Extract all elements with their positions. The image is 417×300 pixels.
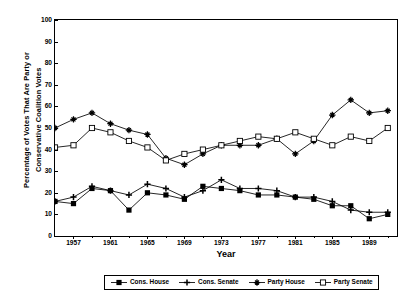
y-tick-label: 30 xyxy=(45,168,52,175)
data-point-open-square xyxy=(256,134,261,139)
series-canvas xyxy=(55,20,397,236)
series-line xyxy=(55,186,388,218)
data-point-open-square xyxy=(126,138,131,143)
x-tick-label: 1969 xyxy=(177,240,192,247)
x-tick-label: 1985 xyxy=(325,240,340,247)
legend-item-2[interactable]: Cons. Senate xyxy=(178,278,239,287)
data-point-asterisk xyxy=(126,127,132,133)
x-tick-mark-minor xyxy=(277,236,278,238)
y-axis-title-line-2: Conservative Coalition Votes xyxy=(32,0,46,240)
legend-item-3[interactable]: Party House xyxy=(248,278,305,287)
data-point-open-square xyxy=(237,138,242,143)
data-point-asterisk xyxy=(107,120,113,126)
x-tick-label: 1973 xyxy=(214,240,229,247)
x-tick-mark-minor xyxy=(388,236,389,238)
x-tick-mark-minor xyxy=(203,236,204,238)
data-point-filled-square xyxy=(256,192,261,197)
y-tick-label: 90 xyxy=(45,38,52,45)
data-point-open-square xyxy=(385,125,390,130)
data-point-filled-square xyxy=(71,201,76,206)
data-point-open-square xyxy=(311,136,316,141)
data-point-filled-square xyxy=(145,190,150,195)
series-3 xyxy=(55,97,391,168)
data-point-open-square xyxy=(182,151,187,156)
plot-area: 0102030405060708090100195719611965196919… xyxy=(54,19,398,237)
x-tick-mark-minor xyxy=(351,236,352,238)
series-line xyxy=(55,100,388,165)
data-point-asterisk xyxy=(385,108,391,114)
x-tick-label: 1957 xyxy=(66,240,81,247)
y-tick-label: 60 xyxy=(45,103,52,110)
data-point-plus xyxy=(126,192,132,198)
data-point-filled-square xyxy=(367,216,372,221)
y-axis-title: Percentage of Votes That Are Party or Co… xyxy=(0,0,52,240)
series-2 xyxy=(55,177,391,216)
data-point-plus xyxy=(218,177,224,183)
y-tick-mark xyxy=(55,150,58,151)
legend-marker-plus-icon xyxy=(178,278,196,287)
y-tick-label: 50 xyxy=(45,125,52,132)
data-point-open-square xyxy=(330,143,335,148)
data-point-open-square xyxy=(320,280,325,285)
y-tick-mark xyxy=(55,193,58,194)
chart-legend: Cons. HouseCons. SenateParty HouseParty … xyxy=(104,275,379,290)
data-point-asterisk xyxy=(366,110,372,116)
y-tick-mark xyxy=(55,214,58,215)
data-point-plus xyxy=(70,194,76,200)
x-tick-mark-minor xyxy=(92,236,93,238)
series-4 xyxy=(55,125,390,163)
data-point-plus xyxy=(163,185,169,191)
data-point-open-square xyxy=(219,143,224,148)
y-tick-mark xyxy=(55,236,58,237)
legend-marker-open-square-icon xyxy=(314,278,332,287)
data-point-plus xyxy=(144,181,150,187)
data-point-asterisk xyxy=(253,279,259,285)
y-tick-label: 20 xyxy=(45,190,52,197)
y-tick-label: 70 xyxy=(45,82,52,89)
x-tick-label: 1981 xyxy=(288,240,303,247)
y-tick-label: 80 xyxy=(45,60,52,67)
data-point-plus xyxy=(255,185,261,191)
legend-item-4[interactable]: Party Senate xyxy=(314,278,373,287)
data-point-plus xyxy=(366,209,372,215)
data-point-open-square xyxy=(145,145,150,150)
y-tick-label: 40 xyxy=(45,146,52,153)
x-tick-label: 1961 xyxy=(103,240,118,247)
x-axis-title: Year xyxy=(54,250,398,259)
x-tick-mark-minor xyxy=(314,236,315,238)
data-point-open-square xyxy=(108,130,113,135)
legend-marker-filled-square-icon xyxy=(110,278,128,287)
data-point-open-square xyxy=(367,138,372,143)
y-tick-mark xyxy=(55,85,58,86)
y-tick-mark xyxy=(55,63,58,64)
y-tick-mark xyxy=(55,128,58,129)
x-tick-label: 1965 xyxy=(140,240,155,247)
x-tick-mark-minor xyxy=(166,236,167,238)
data-point-open-square xyxy=(293,130,298,135)
data-point-open-square xyxy=(200,147,205,152)
data-point-open-square xyxy=(163,158,168,163)
data-point-filled-square xyxy=(163,192,168,197)
legend-label: Cons. Senate xyxy=(198,279,239,285)
legend-marker-asterisk-icon xyxy=(248,278,266,287)
y-tick-label: 0 xyxy=(48,233,52,240)
data-point-filled-square xyxy=(219,186,224,191)
y-tick-mark xyxy=(55,20,58,21)
x-tick-label: 1977 xyxy=(251,240,266,247)
legend-label: Cons. House xyxy=(130,279,169,285)
data-point-open-square xyxy=(348,134,353,139)
data-point-asterisk xyxy=(89,110,95,116)
legend-label: Party Senate xyxy=(334,279,373,285)
x-tick-label: 1989 xyxy=(362,240,377,247)
data-point-open-square xyxy=(274,136,279,141)
chart-figure: Percentage of Votes That Are Party or Co… xyxy=(0,0,417,300)
legend-item-1[interactable]: Cons. House xyxy=(110,278,169,287)
data-point-filled-square xyxy=(126,207,131,212)
y-tick-label: 100 xyxy=(41,17,52,24)
series-line xyxy=(55,180,388,212)
y-tick-label: 10 xyxy=(45,211,52,218)
data-point-open-square xyxy=(89,125,94,130)
data-point-plus xyxy=(184,279,190,285)
y-tick-mark xyxy=(55,106,58,107)
data-point-asterisk xyxy=(181,162,187,168)
